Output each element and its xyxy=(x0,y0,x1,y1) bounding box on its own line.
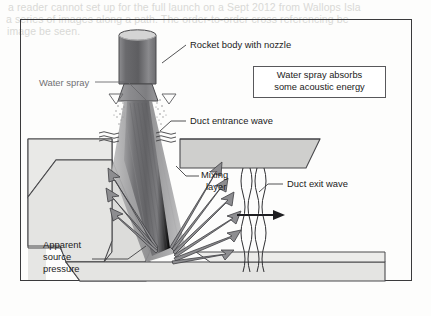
leader-duct-exit-wave xyxy=(259,184,283,192)
water-spray-nozzle-right xyxy=(155,94,176,125)
right-duct-slab xyxy=(180,139,320,168)
rocket-body xyxy=(119,30,156,84)
label-mixing-layer-line2: layer xyxy=(206,181,226,192)
callout-line-1: Water spray absorbs xyxy=(277,70,362,82)
label-apparent-source-line1: Apparent xyxy=(43,239,81,250)
label-duct-entrance-wave: Duct entrance wave xyxy=(190,115,273,126)
label-water-spray: Water spray xyxy=(39,77,89,88)
label-mixing-layer-line1: Mixing xyxy=(201,169,228,180)
page-background: a reader cannot set up for the full laun… xyxy=(0,0,431,316)
label-duct-exit-wave: Duct exit wave xyxy=(287,178,348,189)
water-spray-callout-box: Water spray absorbs some acoustic energy xyxy=(253,66,386,98)
callout-line-2: some acoustic energy xyxy=(274,82,364,94)
label-rocket-body: Rocket body with nozzle xyxy=(190,39,291,50)
label-apparent-source-line3: pressure xyxy=(43,263,79,274)
leader-rocket-body xyxy=(162,45,186,63)
spray-droplets-right xyxy=(155,99,166,125)
leader-duct-entrance-wave xyxy=(160,121,186,131)
label-apparent-source-line2: source xyxy=(43,251,71,262)
duct-exit-arrow xyxy=(237,210,285,220)
